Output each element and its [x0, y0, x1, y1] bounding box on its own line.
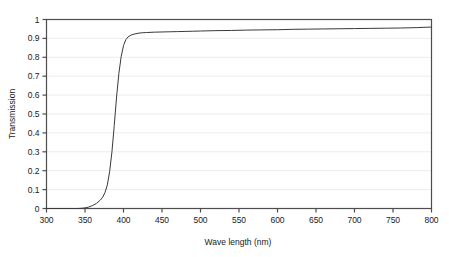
x-tick-label: 450: [155, 215, 169, 225]
x-tick-label: 750: [386, 215, 400, 225]
x-tick-label: 800: [424, 215, 438, 225]
y-tick-label: 1: [35, 15, 40, 25]
x-tick-label: 650: [309, 215, 323, 225]
x-tick-label: 700: [347, 215, 361, 225]
x-tick-label: 400: [116, 215, 130, 225]
y-tick-label: 0.9: [28, 33, 40, 43]
x-tick-label: 300: [39, 215, 53, 225]
y-tick-label: 0.2: [28, 166, 40, 176]
transmission-chart: 300350400450500550600650700750800 00.10.…: [0, 0, 449, 257]
y-tick-label: 0.6: [28, 90, 40, 100]
y-axis-title: Transmission: [7, 89, 17, 139]
x-axis-title: Wave length (nm): [205, 237, 272, 247]
y-tick-label: 0.4: [28, 128, 40, 138]
chart-canvas: 300350400450500550600650700750800 00.10.…: [0, 0, 449, 257]
y-tick-label: 0.3: [28, 147, 40, 157]
x-tick-label: 550: [232, 215, 246, 225]
y-tick-label: 0.8: [28, 52, 40, 62]
y-tick-label: 0.5: [28, 109, 40, 119]
x-tick-label: 350: [78, 215, 92, 225]
y-tick-label: 0.7: [28, 71, 40, 81]
y-tick-label: 0: [35, 204, 40, 214]
y-tick-label: 0.1: [28, 185, 40, 195]
x-tick-label: 600: [270, 215, 284, 225]
x-tick-label: 500: [193, 215, 207, 225]
